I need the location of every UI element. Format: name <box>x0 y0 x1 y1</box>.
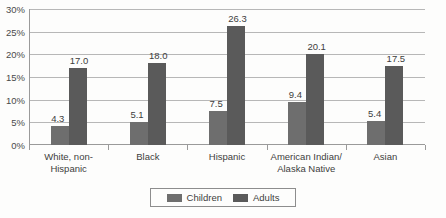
legend-label-adults: Adults <box>253 192 279 203</box>
bar-adults[interactable]: 17.0 <box>69 68 87 145</box>
bar-children[interactable]: 7.5 <box>209 111 227 145</box>
category-label-line: Alaska Native <box>267 163 346 175</box>
bar-group: 9.420.1 <box>267 9 346 145</box>
bar-group: 7.526.3 <box>187 9 266 145</box>
y-axis-tick-label: 25% <box>6 26 25 37</box>
category-label-line: Black <box>108 151 187 163</box>
category-label-line: Hispanic <box>29 163 108 175</box>
x-axis-tick <box>346 145 347 150</box>
category-label: Black <box>108 151 187 174</box>
legend-swatch-adults-icon <box>233 194 248 202</box>
legend-item-adults[interactable]: Adults <box>233 192 279 203</box>
bar-adults[interactable]: 20.1 <box>306 54 324 145</box>
y-axis-tick-label: 20% <box>6 49 25 60</box>
bar-value-label: 9.4 <box>289 89 302 100</box>
category-label: Hispanic <box>187 151 266 174</box>
bar-children[interactable]: 4.3 <box>51 126 69 145</box>
x-axis-tick <box>108 145 109 150</box>
bar-adults[interactable]: 26.3 <box>227 26 245 145</box>
category-label-line: American Indian/ <box>267 151 346 163</box>
bar-group: 4.317.0 <box>29 9 108 145</box>
grouped-bar-chart: 30%25%20%15%10%5%0% 4.317.05.118.07.526.… <box>0 0 446 218</box>
y-axis-tick-label: 0% <box>11 140 25 151</box>
bar-value-label: 17.0 <box>70 55 89 66</box>
y-axis-labels: 30%25%20%15%10%5%0% <box>0 9 27 145</box>
category-label: Asian <box>346 151 425 174</box>
category-label-line: Asian <box>346 151 425 163</box>
x-axis-ticks <box>29 145 425 150</box>
category-label-line: White, non- <box>29 151 108 163</box>
x-axis-tick <box>187 145 188 150</box>
legend-label-children: Children <box>187 192 222 203</box>
y-axis-tick-label: 10% <box>6 94 25 105</box>
x-axis-tick <box>29 145 30 150</box>
y-axis-tick-label: 15% <box>6 72 25 83</box>
category-label-line: Hispanic <box>187 151 266 163</box>
category-label: White, non-Hispanic <box>29 151 108 174</box>
bar-value-label: 5.1 <box>130 109 143 120</box>
x-axis-category-labels: White, non-HispanicBlackHispanicAmerican… <box>29 151 425 174</box>
bar-group: 5.118.0 <box>108 9 187 145</box>
bar-children[interactable]: 5.1 <box>130 122 148 145</box>
bar-value-label: 26.3 <box>228 13 247 24</box>
chart-legend: Children Adults <box>150 188 296 207</box>
bar-value-label: 7.5 <box>210 98 223 109</box>
bar-value-label: 20.1 <box>307 41 326 52</box>
bar-value-label: 5.4 <box>368 108 381 119</box>
bar-group: 5.417.5 <box>346 9 425 145</box>
bar-children[interactable]: 9.4 <box>288 102 306 145</box>
x-axis-tick <box>267 145 268 150</box>
bar-value-label: 17.5 <box>387 53 406 64</box>
bar-value-label: 18.0 <box>149 50 168 61</box>
bar-groups: 4.317.05.118.07.526.39.420.15.417.5 <box>29 9 425 145</box>
y-axis-tick-label: 5% <box>11 117 25 128</box>
category-label: American Indian/Alaska Native <box>267 151 346 174</box>
bar-children[interactable]: 5.4 <box>367 121 385 145</box>
bar-value-label: 4.3 <box>51 113 64 124</box>
bar-adults[interactable]: 17.5 <box>385 66 403 145</box>
legend-item-children[interactable]: Children <box>167 192 222 203</box>
x-axis-tick <box>425 145 426 150</box>
bar-adults[interactable]: 18.0 <box>148 63 166 145</box>
y-axis-tick-label: 30% <box>6 4 25 15</box>
legend-swatch-children-icon <box>167 194 182 202</box>
